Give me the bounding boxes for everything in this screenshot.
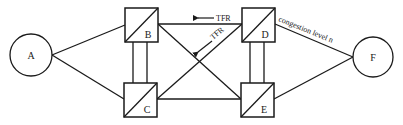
node-f: F [353,37,393,77]
node-c-label: C [144,104,151,115]
node-e-label: E [261,104,267,115]
tfr-arrow-diagonal [198,41,212,52]
network-diagram: TFR TFR congestion level n A B C D E F [0,0,403,125]
node-b-label: B [145,29,152,40]
node-a: A [10,34,52,76]
tfr-label-top: TFR [216,14,231,23]
edge-a-c [52,55,124,99]
node-f-label: F [370,52,376,63]
node-d-label: D [261,29,268,40]
node-a-label: A [27,50,35,61]
edge-a-b [52,25,125,55]
node-b: B [125,8,158,42]
tfr-label-diagonal: TFR [209,25,227,42]
node-e: E [241,83,274,117]
node-c: C [124,83,157,117]
edge-e-f [274,57,353,99]
node-d: D [242,8,275,42]
congestion-label: congestion level n [277,15,334,45]
